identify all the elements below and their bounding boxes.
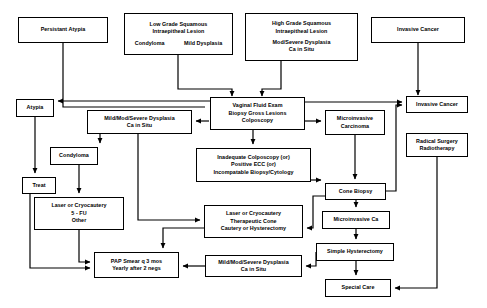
node-line: Radiotherapy [419, 145, 454, 152]
node-pap-smear[interactable]: PAP Smear q 3 mos Yearly after 2 negs [94, 252, 179, 278]
node-line: PAP Smear q 3 mos [111, 258, 162, 265]
node-line: Simple Hysterectomy [327, 248, 383, 255]
node-line: Ca in Situ [241, 266, 266, 273]
node-line: Invasive Cancer [397, 26, 439, 33]
node-mild-mod-severe-dysplasia-top[interactable]: Mild/Mod/Severe Dysplasia Ca in Situ [87, 110, 192, 134]
node-atypia[interactable]: Atypia [16, 99, 54, 117]
edge-lowgrade-to-exam [178, 55, 232, 96]
node-line: Vaginal Fluid Exam [232, 102, 282, 109]
node-vaginal-fluid-exam[interactable]: Vaginal Fluid Exam Biopsy Gross Lesions … [210, 97, 305, 130]
node-special-care[interactable]: Special Care [325, 279, 391, 297]
node-line: Mild/Mod/Severe Dysplasia [218, 259, 288, 266]
node-persistant-atypia[interactable]: Persistant Atypia [18, 17, 108, 43]
node-line: Colposcopy [242, 117, 273, 124]
node-line: Carcinoma [341, 123, 369, 130]
edge-cone-to-dysplasia-bottom [306, 252, 316, 266]
node-line: Atypia [27, 104, 44, 111]
node-line: Intraepitheal Lesion [276, 28, 328, 35]
node-line: Radical Surgery [416, 138, 458, 145]
node-line: Mild/Mod/Severe Dysplasia [104, 115, 174, 122]
flowchart-canvas: Persistant Atypia Low Grade Squamous Int… [0, 0, 487, 308]
node-line: Invasive Cancer [416, 101, 458, 108]
node-high-grade-sil[interactable]: High Grade Squamous Intraepitheal Lesion… [245, 13, 358, 61]
edge-laser5fu-to-pap [79, 230, 90, 262]
node-low-grade-sil[interactable]: Low Grade Squamous Intraepitheal Lesion … [124, 13, 233, 55]
node-line: 5 - FU [71, 210, 86, 217]
node-line: Persistant Atypia [41, 26, 86, 33]
node-line: Microinvasive [337, 115, 373, 122]
node-sub-line: Mild Dysplasia [184, 40, 222, 47]
node-cone-biopsy[interactable]: Cone Biopsy [325, 183, 386, 200]
node-line: Ca in Situ [127, 122, 152, 129]
node-line: Treat [32, 182, 45, 189]
node-mild-mod-severe-dysplasia-bottom[interactable]: Mild/Mod/Severe Dysplasia Ca in Situ [205, 255, 302, 277]
edge-cone-to-invasive [386, 105, 402, 191]
node-laser-cryocautery-5fu[interactable]: Laser or Cryocautery 5 - FU Other [34, 197, 124, 230]
node-invasive-cancer-right[interactable]: Invasive Cancer [406, 96, 468, 113]
node-line: Other [72, 217, 87, 224]
node-laser-cryocautery-therapeutic[interactable]: Laser or Cryocautery Therapeutic Cone Ca… [204, 205, 303, 238]
node-sub-row: Condyloma Mild Dysplasia [125, 40, 232, 47]
node-condyloma[interactable]: Condyloma [50, 147, 98, 165]
node-invasive-cancer-top[interactable]: Invasive Cancer [371, 17, 465, 43]
node-microinvasive-carcinoma[interactable]: Microinvasive Carcinoma [325, 110, 385, 135]
edge-highgrade-to-exam [262, 61, 281, 96]
node-line: Microinvasive Ca [334, 216, 379, 223]
node-line: Cone Biopsy [339, 188, 373, 195]
node-line: Inadequate Colposcopy (or) [217, 154, 290, 161]
node-line: Condyloma [59, 152, 89, 159]
node-treat[interactable]: Treat [22, 177, 56, 194]
node-line: Positive ECC (or) [231, 161, 276, 168]
node-sub-line: Condyloma [135, 40, 165, 47]
node-microinvasive-ca[interactable]: Microinvasive Ca [322, 211, 390, 229]
node-line: High Grade Squamous [272, 20, 331, 27]
node-simple-hysterectomy[interactable]: Simple Hysterectomy [316, 243, 394, 261]
node-line: Laser or Cryocautery [226, 210, 281, 217]
node-sub-line: Ca in Situ [289, 46, 314, 53]
node-radical-surgery[interactable]: Radical Surgery Radiotherapy [406, 133, 468, 157]
node-line: Yearly after 2 negs [112, 265, 161, 272]
node-line: Intraepitheal Lesion [153, 28, 205, 35]
node-line: Special Care [342, 284, 375, 291]
edge-radical-to-special-care [395, 157, 437, 288]
edge-dysplasia-to-therapeutic [138, 134, 200, 220]
node-line: Biopsy Gross Lesions [229, 110, 287, 117]
node-line: Therapeutic Cone [230, 218, 276, 225]
node-line: Cautery or Hysterectomy [221, 225, 286, 232]
edge-therapeutic-to-pap [163, 228, 204, 248]
node-inadequate-colposcopy[interactable]: Inadequate Colposcopy (or) Positive ECC … [196, 148, 311, 182]
node-line: Laser or Cryocautery [51, 202, 106, 209]
node-line: Incompatable Biopsy/Cytology [213, 169, 293, 176]
node-line: Low Grade Squamous [150, 21, 208, 28]
node-sub-line: Mod/Severe Dysplasia [273, 39, 331, 46]
